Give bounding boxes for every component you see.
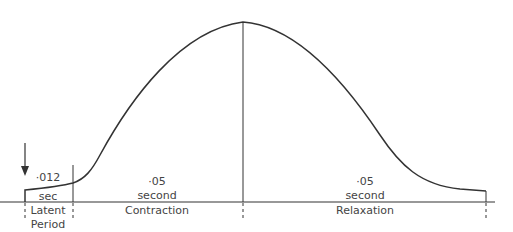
latent-phase-label-line1: Latent xyxy=(30,204,65,217)
latent-duration-value: ·012 xyxy=(36,171,61,184)
contraction-phase-label: Contraction xyxy=(125,204,189,217)
latent-duration-unit: sec xyxy=(39,190,58,203)
relaxation-phase-label: Relaxation xyxy=(336,204,394,217)
phase-ticks xyxy=(25,203,486,218)
latent-phase-label-line2: Period xyxy=(31,218,65,231)
stimulus-arrow-icon xyxy=(21,143,29,176)
relaxation-duration-unit: second xyxy=(345,189,384,202)
relaxation-duration-value: ·05 xyxy=(356,175,374,188)
twitch-curve xyxy=(25,22,486,202)
twitch-diagram xyxy=(0,0,513,232)
contraction-duration-value: ·05 xyxy=(148,175,166,188)
contraction-duration-unit: second xyxy=(137,189,176,202)
